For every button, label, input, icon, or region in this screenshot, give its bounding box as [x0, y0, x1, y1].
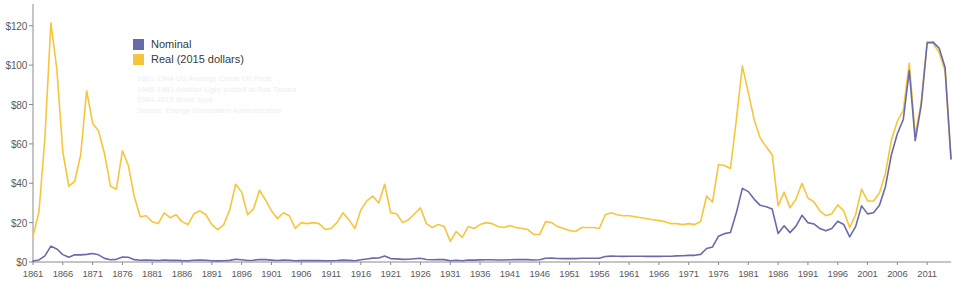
x-axis-tick-label: 1951 [559, 268, 579, 279]
x-axis-tick-label: 1931 [440, 268, 460, 279]
note-line-4: Source: Energy Information Administratio… [137, 106, 387, 117]
x-axis-tick-label: 1921 [380, 268, 400, 279]
y-axis-tick-label: $60 [11, 138, 27, 149]
x-axis-tick-label: 1886 [172, 268, 192, 279]
x-axis-tick-label: 1876 [112, 268, 132, 279]
y-axis-tick-label: $0 [16, 257, 27, 268]
x-axis-tick-label: 1871 [82, 268, 102, 279]
x-axis-tick-label: 1916 [351, 268, 371, 279]
chart-legend: Nominal Real (2015 dollars) [133, 38, 393, 68]
x-axis-tick-label: 1986 [768, 268, 788, 279]
note-line-2: 1945-1983 Arabian Light posted at Ras Ta… [137, 85, 387, 96]
y-axis-tick-label: $80 [11, 99, 27, 110]
x-axis-tick-label: 1941 [500, 268, 520, 279]
y-axis-labels: $0$20$40$60$80$100$120 [0, 0, 29, 288]
x-axis-tick-label: 1906 [291, 268, 311, 279]
legend-label-nominal: Nominal [151, 38, 191, 50]
x-axis-tick-label: 1971 [679, 268, 699, 279]
x-axis-tick-label: 1861 [23, 268, 43, 279]
legend-item-nominal[interactable]: Nominal [133, 38, 393, 50]
x-axis-tick-label: 1891 [202, 268, 222, 279]
x-axis-tick-label: 1981 [738, 268, 758, 279]
x-axis-tick-label: 1956 [589, 268, 609, 279]
x-axis-tick-label: 1936 [470, 268, 490, 279]
x-axis-tick-label: 2011 [917, 268, 937, 279]
note-line-1: 1861-1944 US Average Crude Oil Price [137, 74, 387, 85]
legend-swatch-real [133, 54, 144, 65]
legend-swatch-nominal [133, 39, 144, 50]
x-axis-tick-label: 1966 [649, 268, 669, 279]
x-axis-tick-label: 2006 [887, 268, 907, 279]
x-axis-tick-label: 1911 [321, 268, 341, 279]
x-axis-tick-label: 1881 [142, 268, 162, 279]
note-line-3: 1984-2015 Brent Spot [137, 95, 387, 106]
x-axis-labels: 1861186618711876188118861891189619011906… [0, 268, 955, 288]
x-axis-tick-label: 1991 [798, 268, 818, 279]
y-axis-tick-label: $40 [11, 178, 27, 189]
y-axis-tick-label: $20 [11, 217, 27, 228]
x-axis-tick-label: 1901 [261, 268, 281, 279]
x-axis-tick-label: 1866 [53, 268, 73, 279]
x-axis-tick-label: 1946 [530, 268, 550, 279]
x-axis-tick-label: 1976 [708, 268, 728, 279]
chart-source-notes: 1861-1944 US Average Crude Oil Price 194… [137, 74, 387, 116]
legend-label-real: Real (2015 dollars) [151, 53, 244, 65]
x-axis-tick-label: 1996 [828, 268, 848, 279]
x-axis-tick-label: 2001 [857, 268, 877, 279]
oil-price-chart: $0$20$40$60$80$100$120 18611866187118761… [0, 0, 955, 288]
legend-item-real[interactable]: Real (2015 dollars) [133, 53, 393, 65]
x-axis-tick-label: 1926 [410, 268, 430, 279]
x-axis-tick-label: 1961 [619, 268, 639, 279]
x-axis-tick-label: 1896 [231, 268, 251, 279]
y-axis-tick-label: $120 [6, 20, 27, 31]
y-axis-tick-label: $100 [6, 60, 27, 71]
